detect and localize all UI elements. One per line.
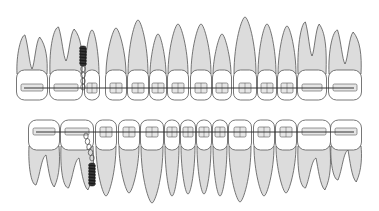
tooth-root bbox=[17, 35, 47, 74]
tooth-incisor bbox=[168, 24, 189, 100]
tooth-root bbox=[50, 27, 82, 74]
tooth-incisor bbox=[191, 24, 212, 100]
tooth-root bbox=[329, 30, 361, 74]
tooth-molar bbox=[29, 120, 60, 187]
tooth-molar bbox=[298, 120, 331, 190]
tooth-premolar bbox=[276, 120, 297, 193]
tooth-molar bbox=[61, 120, 94, 190]
tooth-root bbox=[119, 146, 139, 193]
dental-arches-drawing bbox=[0, 0, 379, 211]
tooth-incisor bbox=[181, 120, 196, 194]
tooth-root bbox=[128, 20, 148, 74]
tooth-incisor bbox=[150, 34, 167, 100]
tooth-root bbox=[254, 146, 274, 196]
tooth-premolar bbox=[258, 24, 277, 100]
tooth-root bbox=[331, 146, 362, 182]
tooth-premolar bbox=[119, 120, 140, 193]
tooth-root bbox=[165, 146, 179, 196]
tooth-root bbox=[29, 146, 60, 187]
tooth-incisor bbox=[213, 34, 232, 100]
tooth-incisor bbox=[165, 120, 180, 196]
tooth-premolar bbox=[85, 30, 100, 100]
tooth-incisor bbox=[213, 120, 228, 196]
tooth-root bbox=[298, 22, 326, 74]
tooth-root bbox=[234, 17, 256, 74]
tooth-root bbox=[213, 34, 231, 74]
tooth-premolar bbox=[106, 28, 127, 100]
tooth-root bbox=[298, 146, 331, 190]
tooth-molar bbox=[17, 35, 48, 100]
tooth-molar bbox=[331, 120, 362, 182]
mini-screw-icon bbox=[79, 46, 87, 66]
tooth-root bbox=[278, 26, 296, 74]
tooth-incisor bbox=[197, 120, 212, 194]
tooth-root bbox=[229, 146, 251, 202]
tooth-molar bbox=[329, 30, 362, 100]
tooth-root bbox=[106, 28, 126, 74]
tooth-root bbox=[85, 30, 99, 74]
tooth-root bbox=[197, 146, 211, 194]
tooth-root bbox=[276, 146, 296, 193]
tooth-root bbox=[150, 34, 166, 74]
lower-arch bbox=[29, 120, 362, 203]
tooth-root bbox=[191, 24, 211, 74]
tooth-root bbox=[168, 24, 188, 74]
braces-illustration: Orthodontic braces with mini-screw ancho… bbox=[0, 0, 379, 211]
tooth-molar bbox=[50, 27, 83, 100]
tooth-root bbox=[181, 146, 195, 194]
tooth-root bbox=[141, 146, 163, 203]
tooth-premolar bbox=[96, 120, 117, 196]
upper-arch bbox=[17, 17, 362, 100]
tooth-premolar bbox=[254, 120, 275, 196]
mini-screw-icon bbox=[88, 163, 96, 186]
tooth-root bbox=[258, 24, 276, 74]
tooth-root bbox=[96, 146, 116, 196]
tooth-root bbox=[213, 146, 227, 196]
tooth-premolar bbox=[278, 26, 297, 100]
